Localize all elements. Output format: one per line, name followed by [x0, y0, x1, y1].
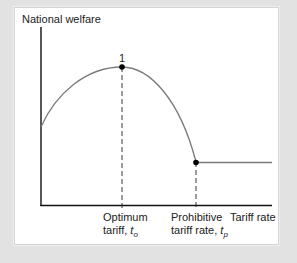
prohibitive-label-line2: tariff rate, tp: [171, 224, 228, 241]
optimum-label-line2: tariff, to: [103, 224, 148, 241]
point-1-label: 1: [119, 52, 125, 65]
optimum-point-marker: [119, 64, 125, 70]
welfare-curve: [41, 67, 196, 162]
optimum-tariff-label: Optimum tariff, to: [103, 211, 148, 241]
optimum-label-line1: Optimum: [103, 211, 148, 224]
prohibitive-label-prefix: tariff rate,: [171, 224, 220, 236]
y-axis-label: National welfare: [22, 13, 101, 26]
prohibitive-symbol: tp: [220, 224, 228, 236]
optimum-label-prefix: tariff,: [103, 224, 130, 236]
prohibitive-tariff-label: Prohibitive tariff rate, tp: [171, 211, 228, 241]
prohibitive-point-marker: [193, 160, 199, 166]
optimum-symbol: to: [130, 224, 138, 236]
prohibitive-label-line1: Prohibitive: [171, 211, 228, 224]
x-axis-label: Tariff rate: [230, 211, 276, 224]
